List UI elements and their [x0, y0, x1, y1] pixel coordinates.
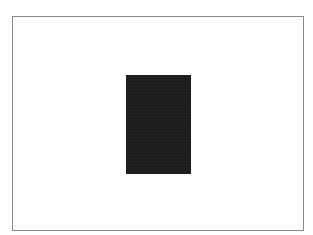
dark-rectangle — [126, 75, 191, 174]
canvas — [0, 0, 313, 235]
